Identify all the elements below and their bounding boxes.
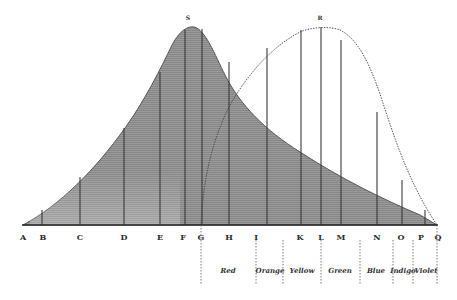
baseline-label-m: M: [337, 232, 346, 242]
baseline-label-p: P: [418, 232, 424, 242]
baseline-label-q: Q: [435, 232, 442, 242]
baseline-label-i: I: [254, 232, 258, 242]
baseline-label-e: E: [157, 232, 163, 242]
baseline-label-a: A: [20, 232, 26, 242]
baseline-label-l: L: [318, 232, 324, 242]
peak-label-r: R: [318, 14, 323, 21]
baseline-label-n: N: [373, 232, 380, 242]
baseline-label-d: D: [121, 232, 128, 242]
baseline-label-g: G: [198, 232, 205, 242]
baseline-label-k: K: [297, 232, 304, 242]
peak-label-s: S: [186, 14, 190, 21]
baseline-label-c: C: [77, 232, 83, 242]
band-label-green: Green: [328, 266, 352, 275]
band-label-violet: Violet: [415, 266, 438, 275]
band-label-blue: Blue: [367, 266, 385, 275]
spectrum-diagram: [0, 0, 457, 300]
band-label-red: Red: [220, 266, 235, 275]
baseline-label-f: F: [180, 232, 186, 242]
band-label-indigo: Indigo: [390, 266, 415, 275]
band-label-yellow: Yellow: [290, 266, 315, 275]
baseline-label-h: H: [225, 232, 233, 242]
band-label-orange: Orange: [256, 266, 285, 275]
baseline-label-b: B: [40, 232, 47, 242]
baseline-label-o: O: [398, 232, 405, 242]
